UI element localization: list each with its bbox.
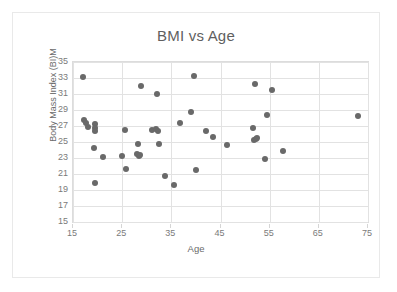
x-tick-label: 25 bbox=[106, 229, 136, 238]
data-point bbox=[154, 91, 160, 97]
data-point bbox=[177, 120, 183, 126]
data-point bbox=[135, 141, 141, 147]
x-tick-label: 65 bbox=[303, 229, 333, 238]
data-point bbox=[122, 127, 128, 133]
gridline-vertical bbox=[319, 62, 320, 222]
data-point bbox=[162, 173, 168, 179]
data-point bbox=[224, 142, 230, 148]
data-point bbox=[156, 141, 162, 147]
y-tick-label: 21 bbox=[42, 169, 68, 178]
data-point bbox=[100, 154, 106, 160]
data-point bbox=[188, 109, 194, 115]
chart-frame: BMI vs Age Body Mass Index (BI)M 1517192… bbox=[12, 12, 380, 278]
y-tick-label: 15 bbox=[42, 217, 68, 226]
y-tick-label: 33 bbox=[42, 73, 68, 82]
data-point bbox=[355, 113, 361, 119]
gridline-vertical bbox=[171, 62, 172, 222]
data-point bbox=[262, 156, 268, 162]
gridline-vertical bbox=[270, 62, 271, 222]
y-axis-tick-labels: 1517192123252729313335 bbox=[40, 61, 68, 223]
y-tick-label: 17 bbox=[42, 201, 68, 210]
data-point bbox=[250, 125, 256, 131]
y-tick-label: 23 bbox=[42, 153, 68, 162]
data-point bbox=[252, 81, 258, 87]
x-axis-tick-labels: 15253545556575 bbox=[72, 229, 369, 243]
x-tick-label: 15 bbox=[57, 229, 87, 238]
data-point bbox=[269, 87, 275, 93]
y-tick-label: 25 bbox=[42, 137, 68, 146]
y-tick-label: 35 bbox=[42, 57, 68, 66]
gridline-vertical bbox=[73, 62, 74, 222]
data-point bbox=[119, 153, 125, 159]
data-point bbox=[92, 128, 98, 134]
screenshot-root: BMI vs Age Body Mass Index (BI)M 1517192… bbox=[0, 0, 397, 292]
data-point bbox=[123, 166, 129, 172]
x-tick-label: 75 bbox=[352, 229, 382, 238]
data-point bbox=[171, 182, 177, 188]
x-tick-label: 55 bbox=[254, 229, 284, 238]
data-point bbox=[193, 167, 199, 173]
gridline-vertical bbox=[221, 62, 222, 222]
data-point bbox=[203, 128, 209, 134]
data-point bbox=[137, 152, 143, 158]
data-point bbox=[254, 135, 260, 141]
y-tick-label: 27 bbox=[42, 121, 68, 130]
gridline-horizontal bbox=[73, 222, 368, 223]
chart-title: BMI vs Age bbox=[13, 27, 379, 44]
y-tick-label: 29 bbox=[42, 105, 68, 114]
data-point bbox=[210, 134, 216, 140]
data-point bbox=[85, 124, 91, 130]
data-point bbox=[280, 148, 286, 154]
data-point bbox=[80, 74, 86, 80]
y-tick-label: 31 bbox=[42, 89, 68, 98]
plot-area bbox=[72, 61, 369, 223]
x-axis-title: Age bbox=[13, 243, 379, 254]
data-point bbox=[138, 83, 144, 89]
x-tick-label: 35 bbox=[155, 229, 185, 238]
x-tick-label: 45 bbox=[205, 229, 235, 238]
data-point bbox=[155, 128, 161, 134]
gridline-vertical bbox=[368, 62, 369, 222]
gridline-vertical bbox=[122, 62, 123, 222]
data-point bbox=[264, 112, 270, 118]
data-point bbox=[92, 180, 98, 186]
y-tick-label: 19 bbox=[42, 185, 68, 194]
data-point bbox=[91, 145, 97, 151]
